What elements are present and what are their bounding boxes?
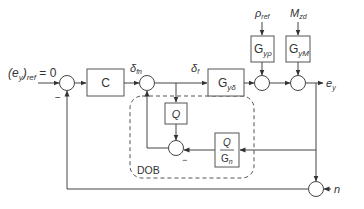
reference-label: (ey)ref = 0 (8, 66, 57, 82)
delta-f-label: δf (191, 62, 200, 75)
inverse-model-numerator: Q (223, 137, 231, 148)
controller-label: C (101, 76, 110, 90)
rho-ref-label: ρref (254, 7, 271, 20)
summing-junction-5 (169, 141, 184, 156)
delta-fn-label: δfn (130, 62, 142, 75)
summing-junction-3 (255, 76, 270, 91)
mzd-label: Mzd (290, 7, 308, 20)
block-diagram: (ey)ref = 0 − C δfn δf Gyδ Gyρ GyM ρref … (0, 0, 364, 209)
sum1-minus-sign: − (55, 92, 61, 103)
output-label: ey (326, 77, 336, 92)
dob-label: DOB (137, 164, 160, 176)
sum5-minus-sign: − (182, 155, 187, 165)
noise-label: n (334, 183, 340, 195)
q-filter-label: Q (172, 108, 181, 120)
summing-junction-1 (60, 76, 75, 91)
summing-junction-2 (140, 76, 155, 91)
summing-junction-4 (291, 76, 306, 91)
summing-junction-6 (309, 182, 324, 197)
